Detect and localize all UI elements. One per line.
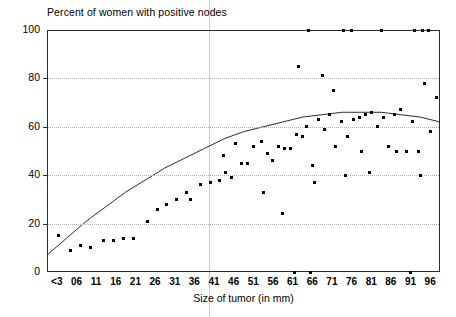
data-point — [321, 74, 324, 77]
data-point — [395, 150, 398, 153]
y-tick-label-40: 40 — [8, 168, 40, 180]
data-point — [323, 128, 326, 131]
data-point — [393, 113, 396, 116]
data-point — [289, 147, 292, 150]
data-point — [342, 29, 345, 32]
x-tick-label-19: 96 — [416, 276, 444, 287]
data-point — [240, 162, 243, 165]
data-point — [340, 120, 343, 123]
y-tick-mark-60 — [43, 127, 47, 128]
y-tick-label-100: 100 — [8, 23, 40, 35]
y-tick-label-0: 0 — [8, 265, 40, 277]
data-point — [334, 145, 337, 148]
data-point — [79, 244, 82, 247]
data-point — [309, 271, 312, 274]
data-point — [417, 150, 420, 153]
data-point — [165, 203, 168, 206]
data-point — [364, 113, 367, 116]
data-point — [419, 174, 422, 177]
data-point — [411, 120, 414, 123]
y-tick-label-80: 80 — [8, 71, 40, 83]
data-point — [409, 271, 412, 274]
data-point — [382, 116, 385, 119]
gridline-y-60 — [48, 127, 439, 128]
data-point — [271, 159, 274, 162]
data-point — [305, 125, 308, 128]
data-point — [185, 191, 188, 194]
data-point — [413, 29, 416, 32]
data-point — [234, 142, 237, 145]
data-point — [328, 113, 331, 116]
data-point — [277, 145, 280, 148]
data-point — [346, 135, 349, 138]
data-point — [218, 179, 221, 182]
data-point — [146, 220, 149, 223]
data-point — [132, 237, 135, 240]
data-point — [421, 29, 424, 32]
data-point — [199, 183, 202, 186]
gridline-y-80 — [48, 78, 439, 79]
y-tick-mark-80 — [43, 78, 47, 79]
data-point — [380, 29, 383, 32]
data-point — [69, 249, 72, 252]
data-point — [350, 29, 353, 32]
y-tick-mark-20 — [43, 224, 47, 225]
data-point — [332, 89, 335, 92]
data-point — [405, 150, 408, 153]
x-axis-label: Size of tumor (in mm) — [47, 292, 440, 304]
y-tick-label-60: 60 — [8, 120, 40, 132]
data-point — [122, 237, 125, 240]
data-point — [209, 181, 212, 184]
data-point — [423, 82, 426, 85]
data-point — [297, 65, 300, 68]
data-point — [307, 29, 310, 32]
plot-overlay — [0, 0, 456, 317]
data-point — [89, 246, 92, 249]
data-point — [352, 118, 355, 121]
data-point — [295, 133, 298, 136]
data-point — [368, 171, 371, 174]
data-point — [281, 212, 284, 215]
data-point — [317, 118, 320, 121]
data-point — [222, 154, 225, 157]
data-point — [156, 208, 159, 211]
gridline-y-20 — [48, 224, 439, 225]
data-point — [230, 176, 233, 179]
data-point — [344, 174, 347, 177]
data-point — [360, 150, 363, 153]
data-point — [283, 147, 286, 150]
data-point — [399, 108, 402, 111]
data-point — [57, 234, 60, 237]
data-point — [266, 152, 269, 155]
data-point — [175, 198, 178, 201]
data-point — [112, 239, 115, 242]
gridline-y-40 — [48, 175, 439, 176]
data-point — [311, 164, 314, 167]
data-point — [246, 162, 249, 165]
data-point — [358, 116, 361, 119]
data-point — [189, 198, 192, 201]
data-point — [262, 191, 265, 194]
y-tick-mark-40 — [43, 175, 47, 176]
data-point — [387, 145, 390, 148]
data-point — [260, 140, 263, 143]
data-point — [376, 125, 379, 128]
data-point — [313, 181, 316, 184]
data-point — [301, 135, 304, 138]
scatter-chart: Percent of women with positive nodes 020… — [0, 0, 456, 317]
data-point — [427, 29, 430, 32]
data-point — [252, 145, 255, 148]
data-point — [293, 271, 296, 274]
data-point — [224, 171, 227, 174]
data-point — [429, 130, 432, 133]
y-tick-label-20: 20 — [8, 217, 40, 229]
fit-curve — [47, 112, 440, 255]
data-point — [435, 96, 438, 99]
data-point — [370, 111, 373, 114]
data-point — [102, 239, 105, 242]
